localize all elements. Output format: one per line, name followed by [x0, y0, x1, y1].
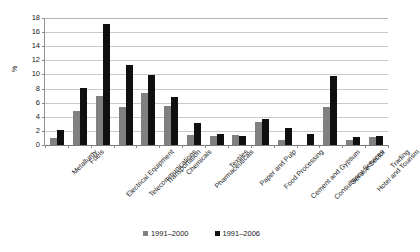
bar — [330, 76, 337, 145]
bar-group — [319, 18, 342, 145]
legend-swatch — [143, 231, 148, 236]
x-tick-mark — [228, 145, 229, 148]
bar-group — [205, 18, 228, 145]
bar — [369, 137, 376, 145]
x-tick-mark — [91, 145, 92, 148]
y-tick-label: 4 — [36, 113, 40, 121]
bar-group — [182, 18, 205, 145]
bar-group — [228, 18, 251, 145]
legend-label: 1991–2000 — [151, 229, 189, 238]
bar — [307, 134, 314, 145]
bar — [187, 135, 194, 145]
bar — [80, 88, 87, 145]
x-tick-mark — [388, 145, 389, 148]
bar — [148, 75, 155, 145]
x-tick-mark — [45, 145, 46, 148]
legend-item: 1991–2006 — [215, 229, 261, 238]
plot-area: 024681012141618 — [44, 18, 388, 146]
y-tick-label: 10 — [32, 71, 40, 79]
x-axis-ticks — [45, 145, 388, 149]
bar-group — [91, 18, 114, 145]
y-tick-label: 12 — [32, 57, 40, 65]
y-tick-label: 8 — [36, 85, 40, 93]
bar — [119, 107, 126, 145]
bar-group — [342, 18, 365, 145]
y-axis-title: % — [11, 66, 18, 72]
bar — [126, 65, 133, 145]
bar-group — [114, 18, 137, 145]
x-tick-mark — [205, 145, 206, 148]
bar — [262, 119, 269, 145]
y-tick-label: 18 — [32, 14, 40, 22]
bar-group — [296, 18, 319, 145]
bar — [194, 123, 201, 145]
y-tick-label: 16 — [32, 28, 40, 36]
bar-group — [69, 18, 92, 145]
bar — [232, 135, 239, 145]
bar — [376, 136, 383, 145]
y-tick-label: 14 — [32, 42, 40, 50]
bar-group — [273, 18, 296, 145]
x-tick-mark — [114, 145, 115, 148]
bar — [217, 134, 224, 145]
bar — [141, 93, 148, 145]
x-axis-label: Pharmaceuticals — [213, 148, 255, 190]
bar — [57, 130, 64, 145]
bar — [285, 128, 292, 145]
legend-item: 1991–2000 — [143, 229, 189, 238]
y-tick-label: 2 — [36, 127, 40, 135]
x-tick-mark — [274, 145, 275, 148]
bar-groups — [45, 18, 388, 145]
x-tick-mark — [365, 145, 366, 148]
legend-swatch — [215, 231, 220, 236]
x-tick-mark — [136, 145, 137, 148]
bar — [171, 97, 178, 145]
x-tick-mark — [159, 145, 160, 148]
legend-label: 1991–2006 — [223, 229, 261, 238]
bar — [164, 106, 171, 145]
x-tick-mark — [342, 145, 343, 148]
y-tick-label: 6 — [36, 99, 40, 107]
bar-group — [251, 18, 274, 145]
bar — [73, 111, 80, 145]
bar — [50, 138, 57, 145]
x-tick-mark — [297, 145, 298, 148]
bar — [210, 136, 217, 145]
bar — [96, 96, 103, 145]
bar-group — [46, 18, 69, 145]
y-tick-label: 0 — [36, 141, 40, 149]
chart-legend: 1991–20001991–2006 — [0, 229, 403, 238]
bar-group — [364, 18, 387, 145]
bar — [239, 136, 246, 145]
bar-group — [160, 18, 183, 145]
bar — [353, 137, 360, 145]
bar-group — [137, 18, 160, 145]
bar — [255, 122, 262, 145]
x-tick-mark — [251, 145, 252, 148]
bar — [103, 24, 110, 145]
x-tick-mark — [182, 145, 183, 148]
bar — [323, 107, 330, 145]
x-tick-mark — [68, 145, 69, 148]
